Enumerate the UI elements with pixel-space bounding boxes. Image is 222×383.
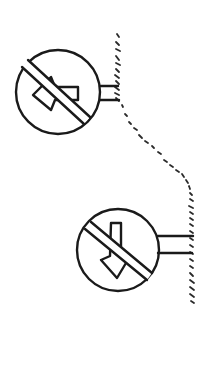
no-down-direction-sign <box>77 209 193 291</box>
no-left-turn-sign <box>16 50 119 134</box>
sign-post <box>158 236 193 253</box>
prohibition-slash-icon <box>85 222 152 280</box>
diagram-canvas <box>0 0 222 383</box>
prohibition-slash-icon <box>22 60 90 124</box>
